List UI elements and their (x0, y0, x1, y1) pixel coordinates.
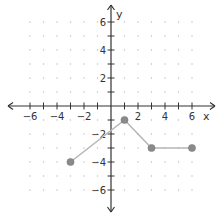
grid-dot (70, 133, 71, 134)
grid-dot (151, 161, 152, 162)
grid-dot (83, 175, 84, 176)
data-point (121, 116, 128, 123)
grid-dot (137, 49, 138, 50)
grid-dot (83, 189, 84, 190)
grid-dot (70, 91, 71, 92)
grid-dot (151, 189, 152, 190)
grid-dot (164, 133, 165, 134)
grid-dot (70, 49, 71, 50)
grid-dot (191, 189, 192, 190)
grid-dot (70, 21, 71, 22)
x-axis-label: x (203, 110, 210, 123)
grid-dot (191, 35, 192, 36)
grid-dot (83, 161, 84, 162)
grid-dot (83, 91, 84, 92)
grid-dot (43, 189, 44, 190)
grid-dot (178, 35, 179, 36)
grid-dot (56, 63, 57, 64)
grid-dot (164, 189, 165, 190)
grid-dot (137, 147, 138, 148)
grid-dot (164, 35, 165, 36)
data-point (67, 158, 74, 165)
grid-dot (29, 175, 30, 176)
grid-dot (164, 175, 165, 176)
grid-dot (56, 147, 57, 148)
x-tick-label: −4 (50, 111, 65, 122)
grid-dot (56, 133, 57, 134)
grid-dot (151, 133, 152, 134)
grid-dot (43, 91, 44, 92)
grid-dot (70, 35, 71, 36)
grid-dot (83, 133, 84, 134)
data-point (148, 144, 155, 151)
grid-dot (178, 133, 179, 134)
grid-dot (70, 147, 71, 148)
grid-dot (70, 63, 71, 64)
grid-dot (124, 77, 125, 78)
grid-dot (151, 91, 152, 92)
grid-dot (124, 133, 125, 134)
grid-dot (56, 49, 57, 50)
grid-dot (178, 189, 179, 190)
grid-dot (151, 21, 152, 22)
coordinate-plane: −6−4−2246642−2−4−6 x y (0, 0, 223, 217)
grid-dot (191, 161, 192, 162)
grid-dot (29, 147, 30, 148)
grid-dot (164, 91, 165, 92)
grid-dot (164, 161, 165, 162)
grid-dot (124, 35, 125, 36)
grid-dot (191, 175, 192, 176)
grid-dot (164, 77, 165, 78)
grid-dot (178, 63, 179, 64)
grid-dot (29, 35, 30, 36)
grid-dot (29, 189, 30, 190)
grid-dot (178, 119, 179, 120)
grid-dot (97, 77, 98, 78)
grid-dot (43, 133, 44, 134)
grid-dot (164, 49, 165, 50)
grid-dot (151, 119, 152, 120)
grid-dot (124, 147, 125, 148)
grid-dot (178, 91, 179, 92)
grid-dot (164, 63, 165, 64)
x-tick-label: 2 (135, 111, 141, 122)
grid-dot (56, 91, 57, 92)
grid-dot (97, 91, 98, 92)
grid-dot (56, 77, 57, 78)
grid-dot (178, 175, 179, 176)
grid-dot (56, 189, 57, 190)
grid-dot (124, 63, 125, 64)
grid-dot (97, 175, 98, 176)
grid-dot (29, 21, 30, 22)
grid-dot (191, 63, 192, 64)
grid-dot (56, 175, 57, 176)
x-tick-label: 4 (162, 111, 168, 122)
grid-dot (124, 161, 125, 162)
grid-dot (191, 91, 192, 92)
grid-dot (191, 21, 192, 22)
x-tick-label: 6 (189, 111, 195, 122)
grid-dot (29, 91, 30, 92)
grid-dot (124, 91, 125, 92)
grid-dot (124, 189, 125, 190)
grid-dot (97, 63, 98, 64)
grid-dot (70, 175, 71, 176)
x-tick-label: −6 (23, 111, 38, 122)
grid-dot (56, 35, 57, 36)
data-point (188, 144, 195, 151)
grid-dot (29, 63, 30, 64)
grid-dot (83, 49, 84, 50)
grid-dot (83, 147, 84, 148)
grid-dot (70, 189, 71, 190)
grid-dot (137, 63, 138, 64)
grid-dot (29, 133, 30, 134)
grid-dot (70, 77, 71, 78)
grid-dot (178, 161, 179, 162)
grid-dot (56, 21, 57, 22)
grid-dot (124, 49, 125, 50)
series-line (71, 120, 193, 162)
grid-dot (178, 49, 179, 50)
grid-dot (29, 77, 30, 78)
grid-dot (191, 49, 192, 50)
grid-dot (43, 77, 44, 78)
